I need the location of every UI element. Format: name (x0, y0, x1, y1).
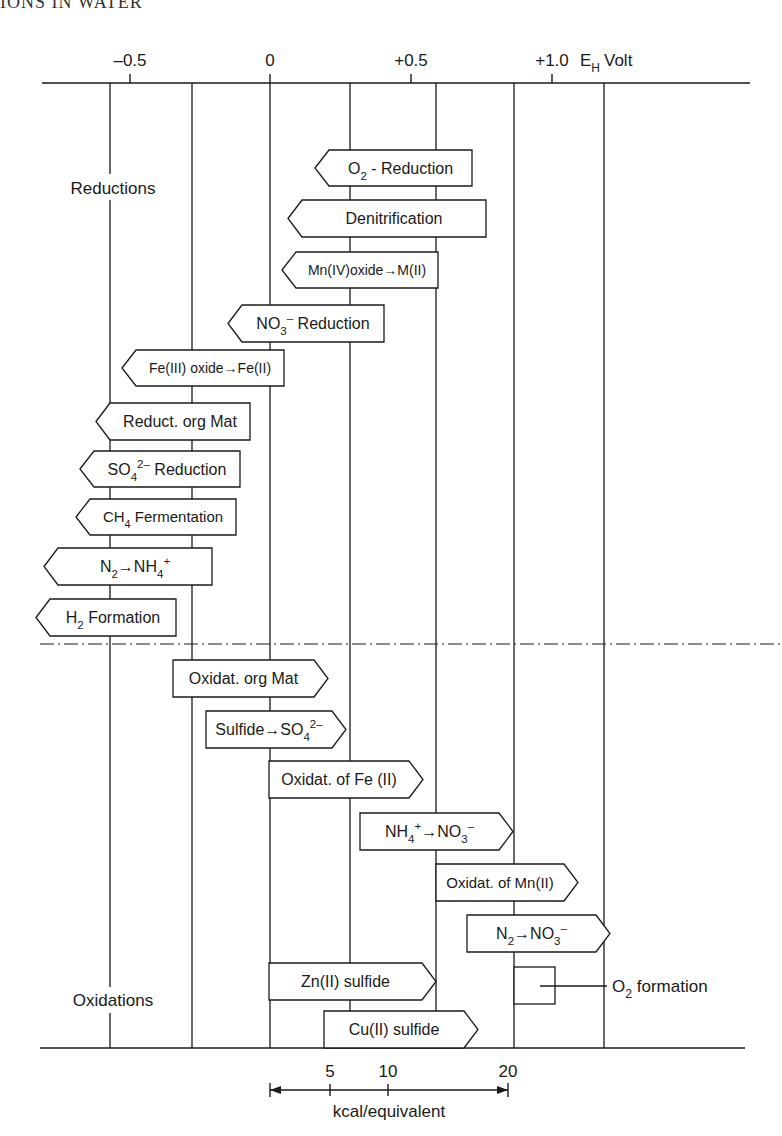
energy-scale: 5 10 20 kcal/equivalent (270, 1062, 517, 1121)
no3-reduction-arrow: NO3– Reduction (228, 305, 384, 342)
sulfide-oxidation-arrow: Sulfide→SO42– (206, 711, 346, 748)
nitrification-arrow: NH4+→NO3– (360, 813, 513, 850)
axis-tick-label: +0.5 (394, 51, 428, 70)
org-reduction-label: Reduct. org Mat (123, 413, 237, 430)
org-reduction-arrow: Reduct. org Mat (96, 403, 250, 440)
zn-sulfide-label: Zn(II) sulfide (301, 973, 390, 990)
scale-label: kcal/equivalent (333, 1102, 446, 1121)
zn-sulfide-arrow: Zn(II) sulfide (269, 963, 436, 1000)
mn-reduction-label: Mn(IV)oxide→M(II) (308, 262, 426, 278)
o2-formation: O2 formation (514, 967, 708, 1004)
axis-title: EHVolt (580, 51, 633, 75)
axis-ticks (130, 74, 552, 83)
denitrification-arrow: Denitrification (288, 200, 486, 237)
org-oxidation-label: Oxidat. org Mat (189, 670, 299, 687)
so4-reduction-arrow: SO42– Reduction (80, 451, 240, 487)
fe-reduction-arrow: Fe(III) oxide→Fe(II) (122, 350, 284, 386)
o2-reduction-arrow: O2 - Reduction (315, 150, 472, 186)
axis-tick-label: +1.0 (535, 51, 569, 70)
n2-no3-arrow: N2→NO3– (467, 915, 610, 952)
n2-nh4-arrow: N2→NH4+ (44, 548, 212, 585)
mn-reduction-arrow: Mn(IV)oxide→M(II) (282, 252, 438, 288)
mn-oxidation-arrow: Oxidat. of Mn(II) (436, 864, 578, 901)
redox-diagram: –0.5 0 +0.5 +1.0 EHVolt Reductions Oxida… (0, 0, 782, 1136)
denitrification-label: Denitrification (346, 210, 443, 227)
fe-oxidation-label: Oxidat. of Fe (II) (281, 771, 397, 788)
reductions-label: Reductions (70, 179, 155, 198)
mn-oxidation-label: Oxidat. of Mn(II) (446, 874, 554, 891)
cu-sulfide-label: Cu(II) sulfide (349, 1021, 440, 1038)
axis-tick-label: 0 (265, 51, 274, 70)
reduction-arrows: O2 - ReductionDenitrificationMn(IV)oxide… (36, 150, 486, 636)
o2-formation-label: O2 formation (612, 977, 708, 1001)
oxidations-label: Oxidations (73, 991, 153, 1010)
fe-reduction-label: Fe(III) oxide→Fe(II) (149, 360, 271, 376)
cu-sulfide-arrow: Cu(II) sulfide (324, 1011, 478, 1048)
h2-formation-arrow: H2 Formation (36, 599, 176, 636)
axis-tick-label: –0.5 (113, 51, 146, 70)
ch4-fermentation-arrow: CH4 Fermentation (76, 499, 236, 535)
org-oxidation-arrow: Oxidat. org Mat (173, 660, 328, 697)
fe-oxidation-arrow: Oxidat. of Fe (II) (269, 761, 423, 798)
scale-tick-label: 20 (499, 1062, 518, 1081)
scale-tick-label: 10 (379, 1062, 398, 1081)
scale-tick-label: 5 (325, 1062, 334, 1081)
